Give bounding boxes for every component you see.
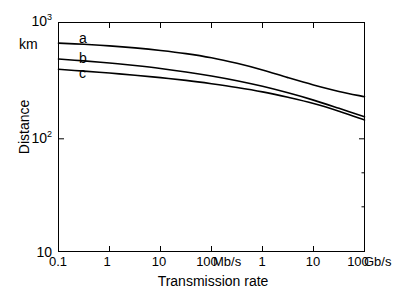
x-tick-label-4: 1 — [239, 255, 285, 268]
curve-label-c: c — [79, 66, 86, 80]
x-axis-title: Transmission rate — [118, 274, 308, 288]
y-axis-title: Distance — [17, 87, 31, 167]
axis-frame — [59, 23, 365, 252]
x-axis-unit-gbps: Gb/s — [364, 255, 391, 268]
x-axis-unit-mbps: Mb/s — [213, 255, 241, 268]
x-tick-label-1: 1 — [84, 255, 130, 268]
figure-chart: 103 102 10 km Distance 0.1 1 10 100 1 10… — [0, 0, 407, 300]
x-tick-label-5: 10 — [290, 255, 336, 268]
curve-label-a: a — [79, 31, 87, 45]
y-axis-unit-label: km — [19, 37, 38, 51]
y-tick-label-1000: 103 — [8, 14, 52, 28]
x-tick-label-2: 10 — [136, 255, 182, 268]
curve-label-b: b — [79, 51, 87, 65]
x-tick-label-0: 0.1 — [35, 255, 81, 268]
